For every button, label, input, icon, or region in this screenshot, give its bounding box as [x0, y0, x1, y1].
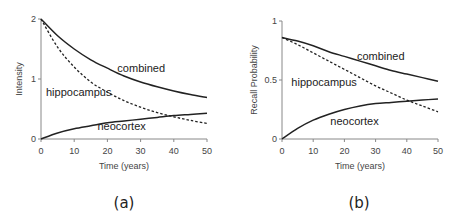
- figure: 01020304050012Time (years)Intensitycombi…: [0, 0, 455, 221]
- curve-label-hippocampus: hippocampus: [291, 76, 357, 88]
- x-axis-label: Time (years): [335, 161, 385, 171]
- curve-label-neocortex: neocortex: [97, 120, 146, 132]
- panel-label: (a): [114, 194, 135, 212]
- x-tick-label: 20: [102, 146, 112, 156]
- x-tick-label: 50: [202, 146, 212, 156]
- x-tick-label: 20: [339, 146, 349, 156]
- x-tick-label: 30: [371, 146, 381, 156]
- y-tick-label: 0: [272, 134, 277, 144]
- y-axis-label: Intensity: [14, 62, 24, 96]
- curve-label-combined: combined: [117, 62, 165, 74]
- y-axis-label: Recall Probability: [249, 45, 259, 115]
- x-tick-label: 50: [433, 146, 443, 156]
- curve-label-hippocampus: hippocampus: [46, 86, 112, 98]
- panel-label: (b): [348, 194, 369, 212]
- x-axis-label: Time (years): [99, 161, 149, 171]
- curve-label-neocortex: neocortex: [330, 115, 379, 127]
- curve-label-combined: combined: [357, 50, 405, 62]
- x-tick-label: 30: [136, 146, 146, 156]
- y-tick-label: 0.5: [264, 75, 277, 85]
- x-tick-label: 40: [402, 146, 412, 156]
- x-tick-label: 0: [38, 146, 43, 156]
- x-tick-label: 40: [169, 146, 179, 156]
- y-tick-label: 1: [31, 74, 36, 84]
- y-tick-label: 1: [272, 16, 277, 26]
- y-tick-label: 0: [31, 134, 36, 144]
- x-tick-label: 10: [308, 146, 318, 156]
- y-tick-label: 2: [31, 14, 36, 24]
- chart-panel-0: 01020304050012Time (years)Intensitycombi…: [14, 14, 212, 212]
- x-tick-label: 10: [69, 146, 79, 156]
- chart-panel-1: 0102030405000.51Time (years)Recall Proba…: [249, 16, 443, 212]
- x-tick-label: 0: [279, 146, 284, 156]
